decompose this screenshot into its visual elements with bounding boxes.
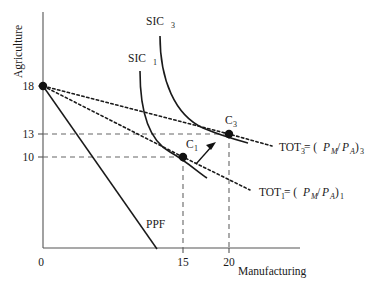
tot1-label-pm: P <box>302 186 310 198</box>
y-axis-title: Agriculture <box>12 25 25 78</box>
shift-arrow-shaft <box>196 146 212 164</box>
x-axis-title: Manufacturing <box>238 265 307 278</box>
sic1-label-text: SIC <box>128 52 146 64</box>
tot1-label: TOT 1 = ( P M / P A ) 1 <box>259 186 344 201</box>
tot1-label-equals: = ( <box>284 186 297 199</box>
tot3-label-name: TOT <box>279 141 301 153</box>
endowment-point-dot <box>39 82 47 90</box>
x-tick-label-20: 20 <box>223 256 235 268</box>
c3-label: C 3 <box>225 114 237 129</box>
tot3-label-close-subscript: 3 <box>360 147 364 156</box>
tot3-label-equals: = ( <box>304 141 317 154</box>
c3-label-text: C <box>225 114 233 126</box>
y-tick-label-18: 18 <box>23 80 35 92</box>
tot1-label-close-subscript: 1 <box>340 192 344 201</box>
shift-arrow <box>196 142 216 164</box>
ppf-label: PPF <box>146 218 165 230</box>
tot3-line <box>43 86 272 146</box>
c3-label-subscript: 3 <box>233 120 237 129</box>
ppf-label-text: PPF <box>146 218 165 230</box>
tot3-label: TOT 3 = ( P M / P A ) 3 <box>279 141 364 156</box>
tot1-line <box>43 86 250 190</box>
sic3-label-text: SIC <box>146 15 164 27</box>
sic1-label-subscript: 1 <box>153 58 157 67</box>
guide-lines-group <box>43 134 229 248</box>
c1-label: C 1 <box>186 138 198 153</box>
x-axis-ticks <box>183 248 229 253</box>
y-tick-label-10: 10 <box>23 151 35 163</box>
tot1-label-pa: P <box>321 186 329 198</box>
x-tick-label-0: 0 <box>38 256 44 268</box>
tot3-label-close: ) <box>355 141 359 154</box>
axes-group <box>43 12 300 248</box>
y-axis-ticks <box>38 86 43 157</box>
y-tick-label-13: 13 <box>23 128 35 140</box>
tot3-label-pm: P <box>322 141 330 153</box>
tot3-label-pa: P <box>341 141 349 153</box>
c1-point-dot <box>179 153 187 161</box>
sic3-label-subscript: 3 <box>171 21 175 30</box>
trade-diagram-figure: Agriculture Manufacturing 18 13 10 0 15 … <box>0 0 366 291</box>
c1-label-subscript: 1 <box>194 144 198 153</box>
x-tick-label-15: 15 <box>177 256 189 268</box>
tot1-label-close: ) <box>335 186 339 199</box>
sic1-label: SIC 1 <box>128 52 157 67</box>
c1-label-text: C <box>186 138 194 150</box>
tot1-label-slash: / <box>317 186 321 198</box>
shift-arrow-head <box>206 142 216 150</box>
tot1-label-name: TOT <box>259 186 281 198</box>
tot3-label-slash: / <box>337 141 341 153</box>
sic3-label: SIC 3 <box>146 15 175 30</box>
c3-point-dot <box>225 130 233 138</box>
chart-canvas: Agriculture Manufacturing 18 13 10 0 15 … <box>0 0 366 291</box>
